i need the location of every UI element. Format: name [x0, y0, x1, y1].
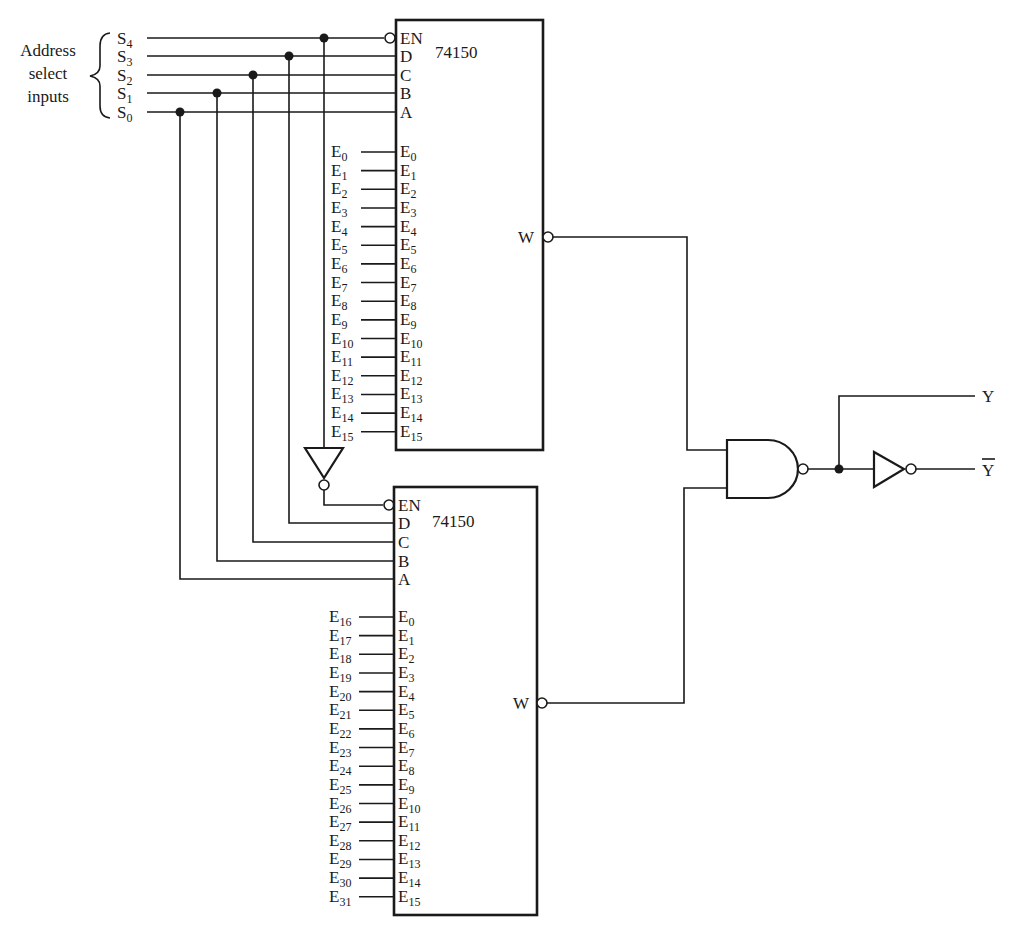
svg-text:inputs: inputs: [27, 87, 69, 106]
w-output-wires: [547, 237, 727, 703]
en-inverter-gate: [305, 448, 394, 510]
chip1-data-inputs: E0E0E1E1E2E2E3E3E4E4E5E5E6E6E7E7E8E8E9E9…: [331, 142, 422, 444]
brace-icon: [90, 33, 110, 118]
svg-text:EN: EN: [398, 496, 421, 515]
svg-text:C: C: [398, 533, 409, 552]
svg-text:74150: 74150: [435, 43, 478, 62]
svg-text:B: B: [400, 84, 411, 103]
svg-text:74150: 74150: [432, 512, 475, 531]
svg-text:EN: EN: [400, 29, 423, 48]
nand-gate: [727, 440, 808, 498]
svg-text:B: B: [398, 552, 409, 571]
w-inverted-bubble-icon: [543, 232, 553, 242]
svg-text:W: W: [518, 228, 535, 247]
select-bus-chip1: [147, 33, 396, 112]
svg-text:Address: Address: [20, 41, 76, 60]
svg-text:W: W: [513, 694, 530, 713]
svg-text:A: A: [398, 570, 411, 589]
svg-text:C: C: [400, 66, 411, 85]
output-y-bar-label: Y: [982, 461, 994, 480]
select-bus-chip2: [180, 38, 394, 579]
address-select-label: Address select inputs: [20, 41, 76, 106]
chip-74150-upper: 74150 EN D C B A W E0E0E1E1E2E2E3E3E4E4E…: [331, 20, 553, 450]
output-y-label: Y: [982, 387, 994, 406]
output-inverter-gate: [874, 452, 904, 487]
chip-74150-lower: 74150 EN D C B A W E16E0E17E1E18E2E19E3E…: [329, 487, 547, 915]
mux-schematic: Address select inputs S4 S3 S2 S1 S0: [0, 0, 1012, 938]
en-inverted-bubble-icon: [385, 33, 395, 43]
chip2-data-inputs: E16E0E17E1E18E2E19E3E20E4E21E5E22E6E23E7…: [329, 607, 420, 909]
svg-text:select: select: [29, 64, 68, 83]
select-input-labels: S4 S3 S2 S1 S0: [117, 29, 132, 125]
svg-text:D: D: [400, 47, 412, 66]
output-network: Y Y: [808, 387, 995, 487]
w-inverted-bubble-icon: [537, 698, 547, 708]
svg-text:S0: S0: [117, 103, 132, 125]
svg-text:D: D: [398, 514, 410, 533]
svg-text:A: A: [400, 103, 413, 122]
